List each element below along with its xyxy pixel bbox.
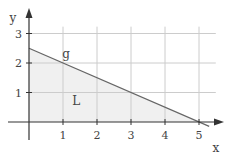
y-tick-label: 2 — [15, 57, 22, 70]
x-tick-label: 3 — [128, 129, 135, 142]
y-tick-label: 1 — [15, 87, 22, 100]
chart: 12345123xygL — [0, 0, 228, 159]
x-tick-label: 1 — [60, 129, 67, 142]
x-axis-label: x — [213, 141, 220, 155]
region-L-label: L — [72, 94, 80, 108]
y-axis-label: y — [9, 11, 17, 25]
x-tick-label: 2 — [94, 129, 101, 142]
x-tick-label: 5 — [196, 129, 203, 142]
x-axis-arrow-icon — [214, 119, 224, 126]
chart-canvas: 12345123xygL — [0, 0, 228, 159]
y-axis-arrow-icon — [26, 8, 33, 18]
y-tick-label: 3 — [15, 28, 22, 41]
line-g-label: g — [62, 47, 70, 61]
x-tick-label: 4 — [162, 129, 169, 142]
